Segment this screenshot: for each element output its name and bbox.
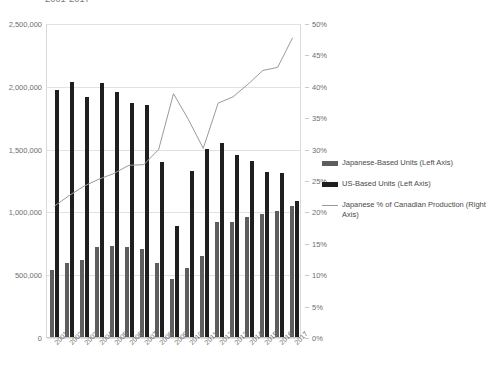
- legend-label: US-Based Units (Left Axis): [342, 179, 486, 189]
- plot-area: [46, 24, 301, 338]
- y-axis-right-tick: 15%: [312, 239, 327, 248]
- y-axis-right-tickmark: [305, 181, 309, 182]
- y-axis-left-tick: 1,000,000: [9, 208, 42, 217]
- y-axis-right-tick: 10%: [312, 271, 327, 280]
- y-axis-right-tickmark: [305, 307, 309, 308]
- line-japanese-percent: [54, 38, 292, 206]
- legend-label: Japanese-Based Units (Left Axis): [342, 158, 486, 168]
- chart-legend: Japanese-Based Units (Left Axis)US-Based…: [322, 158, 486, 232]
- legend-item[interactable]: Japanese-Based Units (Left Axis): [322, 158, 486, 168]
- y-axis-right-tickmark: [305, 118, 309, 119]
- y-axis-left-tick: 0: [38, 334, 42, 343]
- x-axis-labels: 2001200220032004200520062007200820092010…: [46, 340, 301, 366]
- legend-item[interactable]: US-Based Units (Left Axis): [322, 179, 486, 189]
- line-series-layer: [47, 24, 300, 338]
- y-axis-left-tick: 500,000: [15, 271, 42, 280]
- chart-container: 2001-2017 0500,0001,000,0001,500,0002,00…: [0, 0, 489, 366]
- y-axis-left-tick: 2,000,000: [9, 82, 42, 91]
- legend-label: Japanese % of Canadian Production (Right…: [342, 200, 486, 220]
- y-axis-right-tickmark: [305, 212, 309, 213]
- y-axis-right-tickmark: [305, 244, 309, 245]
- y-axis-right-tick: 0%: [312, 334, 323, 343]
- y-axis-right-tickmark: [305, 275, 309, 276]
- legend-color-swatch-icon: [322, 161, 338, 166]
- y-axis-right-tick: 35%: [312, 114, 327, 123]
- chart-title: 2001-2017: [45, 0, 90, 4]
- y-axis-right-tickmark: [305, 87, 309, 88]
- legend-color-swatch-icon: [322, 182, 338, 187]
- y-axis-right-tickmark: [305, 24, 309, 25]
- y-axis-left: 0500,0001,000,0001,500,0002,000,0002,500…: [0, 24, 42, 338]
- y-axis-right-tickmark: [305, 150, 309, 151]
- y-axis-right-tick: 30%: [312, 145, 327, 154]
- y-axis-right-tick: 50%: [312, 20, 327, 29]
- y-axis-right-tick: 40%: [312, 82, 327, 91]
- y-axis-left-tick: 2,500,000: [9, 20, 42, 29]
- legend-item[interactable]: Japanese % of Canadian Production (Right…: [322, 200, 486, 220]
- y-axis-left-tick: 1,500,000: [9, 145, 42, 154]
- legend-line-swatch-icon: [322, 205, 338, 206]
- y-axis-right-tick: 45%: [312, 51, 327, 60]
- y-axis-right-tick: 5%: [312, 302, 323, 311]
- y-axis-right-tickmark: [305, 55, 309, 56]
